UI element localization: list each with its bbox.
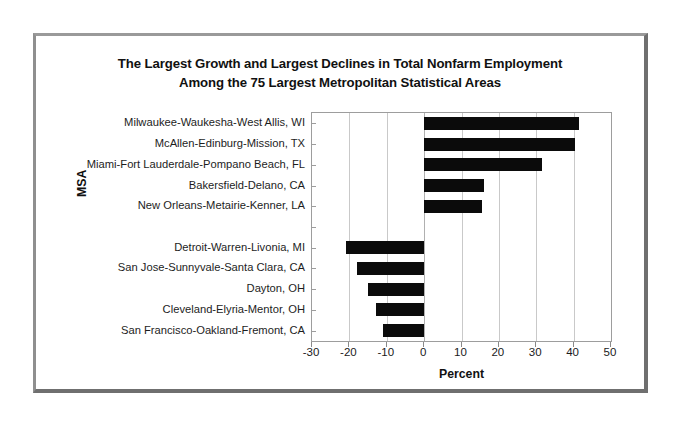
category-tick — [312, 186, 316, 187]
category-label: San Francisco-Oakland-Fremont, CA — [121, 324, 305, 336]
bar — [424, 158, 542, 171]
category-label: Cleveland-Elyria-Mentor, OH — [163, 303, 305, 315]
x-tick-label: 0 — [420, 346, 426, 358]
x-tick-label: 50 — [604, 346, 617, 358]
x-tick-label: -10 — [377, 346, 394, 358]
x-tick-label: 30 — [529, 346, 542, 358]
bar — [368, 283, 424, 296]
category-tick — [312, 165, 316, 166]
category-tick — [312, 144, 316, 145]
bar — [424, 200, 482, 213]
chart-title-line1: The Largest Growth and Largest Declines … — [118, 56, 562, 71]
category-tick — [312, 123, 316, 124]
bar — [424, 179, 484, 192]
x-tick-label: 10 — [454, 346, 467, 358]
x-tick-label: -20 — [340, 346, 357, 358]
x-axis-tick-labels: -30-20-1001020304050 — [311, 346, 612, 362]
category-tick — [312, 289, 316, 290]
bar — [357, 262, 424, 275]
category-label: McAllen-Edinburg-Mission, TX — [155, 137, 305, 149]
chart-title: The Largest Growth and Largest Declines … — [37, 54, 643, 92]
category-tick — [312, 248, 316, 249]
category-axis-labels: Milwaukee-Waukesha-West Allis, WIMcAllen… — [77, 112, 309, 342]
gridline--20 — [349, 113, 350, 341]
category-label: Dayton, OH — [247, 282, 305, 294]
x-tick-label: 40 — [566, 346, 579, 358]
category-label: Detroit-Warren-Livonia, MI — [174, 241, 305, 253]
category-label: Milwaukee-Waukesha-West Allis, WI — [124, 116, 305, 128]
category-tick — [312, 206, 316, 207]
category-label: San Jose-Sunnyvale-Santa Clara, CA — [118, 261, 305, 273]
bar — [383, 324, 424, 337]
chart-title-line2: Among the 75 Largest Metropolitan Statis… — [37, 73, 643, 92]
figure-inner-border: The Largest Growth and Largest Declines … — [36, 36, 644, 389]
x-axis-title: Percent — [311, 367, 612, 381]
bar — [424, 138, 575, 151]
category-label: Miami-Fort Lauderdale-Pompano Beach, FL — [87, 158, 305, 170]
plot-area — [311, 112, 612, 342]
figure-frame: The Largest Growth and Largest Declines … — [33, 33, 648, 393]
bar — [346, 241, 424, 254]
category-label: Bakersfield-Delano, CA — [189, 179, 305, 191]
x-tick-label: 20 — [491, 346, 504, 358]
bar — [376, 303, 425, 316]
x-tick-label: -30 — [303, 346, 320, 358]
category-tick — [312, 268, 316, 269]
category-label: New Orleans-Metairie-Kenner, LA — [138, 199, 305, 211]
category-tick — [312, 331, 316, 332]
bar — [424, 117, 579, 130]
category-tick — [312, 310, 316, 311]
category-tick — [312, 227, 316, 228]
